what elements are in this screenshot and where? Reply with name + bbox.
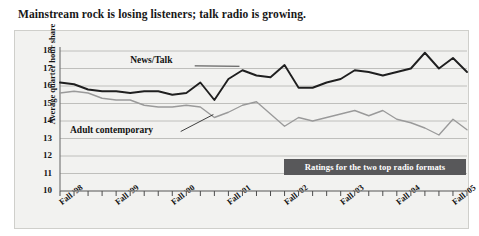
chart-title: Mainstream rock is losing listeners; tal… <box>18 8 306 20</box>
annotation-leader-lines <box>181 66 240 132</box>
series-label-adult-contemporary: Adult contemporary <box>70 125 153 135</box>
series-label-news-talk: News/Talk <box>130 55 172 65</box>
plot-area: Average quarter hour share 1011121314151… <box>14 30 469 229</box>
x-tick-marks <box>60 191 467 196</box>
chart-figure: Mainstream rock is losing listeners; tal… <box>0 0 479 236</box>
callout-banner-text: Ratings for the two top radio formats <box>305 162 446 172</box>
data-series-lines <box>60 53 467 135</box>
callout-banner: Ratings for the two top radio formats <box>284 159 466 175</box>
